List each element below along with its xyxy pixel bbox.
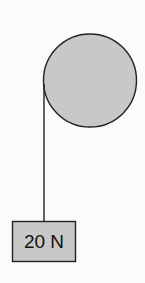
mass-label: 20 N [12,221,76,262]
pulley-wheel [44,34,137,127]
